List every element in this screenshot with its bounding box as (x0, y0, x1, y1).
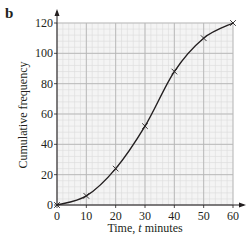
y-tick-label: 0 (47, 198, 53, 212)
x-axis-arrow-icon (239, 203, 246, 208)
y-tick-label: 60 (41, 107, 53, 121)
chart: b 0102030405060020406080100120 Cumulativ… (0, 0, 248, 240)
x-tick-label: 60 (227, 209, 239, 223)
x-axis-label-prefix: Time, (107, 221, 138, 235)
part-label: b (5, 5, 13, 22)
y-tick-label: 20 (41, 168, 53, 182)
x-axis-label-suffix: minutes (142, 221, 183, 235)
y-tick-label: 40 (41, 137, 53, 151)
x-tick-label: 0 (54, 209, 60, 223)
x-tick-label: 10 (80, 209, 92, 223)
x-axis-label: Time, t minutes (107, 221, 183, 235)
y-tick-label: 120 (35, 16, 53, 30)
x-tick-label: 50 (198, 209, 210, 223)
y-axis-arrow-icon (55, 9, 60, 16)
cumulative-frequency-plot: 0102030405060020406080100120 Cumulative … (0, 0, 248, 240)
y-tick-label: 80 (41, 77, 53, 91)
y-axis-label: Cumulative frequency (16, 62, 30, 169)
y-tick-label: 100 (35, 46, 53, 60)
